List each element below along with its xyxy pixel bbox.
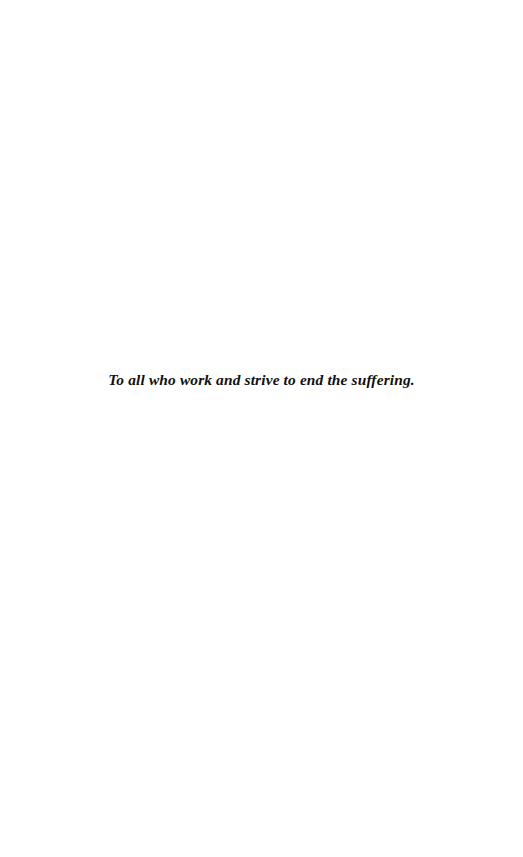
dedication-block: To all who work and strive to end the su… bbox=[0, 355, 523, 406]
dedication-text: To all who work and strive to end the su… bbox=[108, 370, 415, 390]
dedication-page: To all who work and strive to end the su… bbox=[0, 0, 523, 857]
